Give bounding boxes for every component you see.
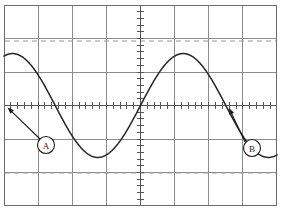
- marker-b-label: B: [249, 144, 255, 154]
- marker-a-label: A: [43, 141, 50, 151]
- graticule-canvas: A B: [0, 0, 281, 212]
- oscilloscope-display: A B: [0, 0, 281, 212]
